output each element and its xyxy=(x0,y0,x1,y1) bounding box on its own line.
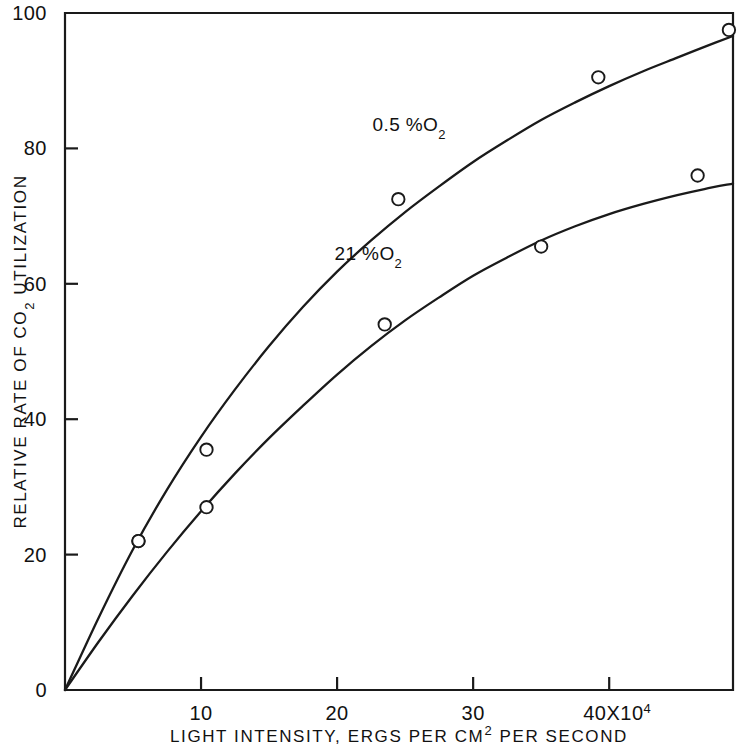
x-axis-title: LIGHT INTENSITY, ERGS PER CM2 PER SECOND xyxy=(170,723,628,747)
data-point-s1-0 xyxy=(132,535,144,547)
x-tick-label-10: 10 xyxy=(189,702,212,724)
x-tick-label-40: 40X104 xyxy=(583,701,651,725)
data-point-s0-4 xyxy=(723,24,735,36)
data-point-s1-3 xyxy=(535,240,547,252)
y-tick-label-80: 80 xyxy=(24,137,47,159)
y-axis-title: RELATIVE RATE OF CO2 UTILIZATION xyxy=(11,174,37,528)
series-label-1: 21 %O2 xyxy=(335,243,403,271)
y-tick-label-20: 20 xyxy=(24,544,47,566)
series-label-0: 0.5 %O2 xyxy=(372,114,445,142)
chart-figure: 02040608010010203040X1040.5 %O221 %O2LIG… xyxy=(0,0,746,754)
y-tick-label-0: 0 xyxy=(35,679,47,701)
data-point-s0-2 xyxy=(392,193,404,205)
chart-canvas: 02040608010010203040X1040.5 %O221 %O2LIG… xyxy=(0,0,746,754)
data-point-s1-1 xyxy=(200,501,212,513)
x-tick-label-30: 30 xyxy=(462,702,485,724)
data-point-s1-4 xyxy=(691,169,703,181)
y-tick-label-100: 100 xyxy=(12,2,47,24)
data-point-s1-2 xyxy=(379,318,391,330)
data-point-s0-1 xyxy=(200,443,212,455)
data-point-s0-3 xyxy=(592,71,604,83)
x-tick-label-20: 20 xyxy=(325,702,348,724)
